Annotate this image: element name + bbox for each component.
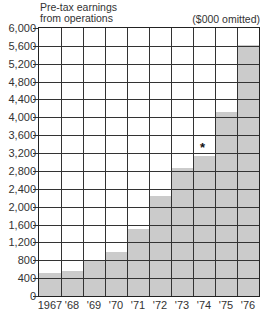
y-tick-label: 1,200 [8,236,36,248]
gridline-vertical [105,28,106,296]
y-tick-label: 6,000 [8,22,36,34]
bar-71 [127,229,149,296]
x-tick-label: '73 [171,299,193,311]
gridline-vertical [215,28,216,296]
y-tick-label: 3,200 [8,147,36,159]
bar-70 [105,252,127,296]
gridline-vertical [171,28,172,296]
x-tick-label: '74 [193,299,215,311]
gridline-vertical [237,28,238,296]
x-tick-label: '75 [215,299,237,311]
x-tick-label: '69 [83,299,105,311]
y-tick-label: 4,000 [8,111,36,123]
units-label: ($000 omitted) [192,13,260,25]
y-tick-label: 5,600 [8,40,36,52]
gridline-vertical [83,28,84,296]
x-tick-label: '76 [237,299,259,311]
x-tick-label: '71 [127,299,149,311]
x-tick-label: '70 [105,299,127,311]
y-tick-label: 2,800 [8,165,36,177]
x-tick-label: '68 [61,299,83,311]
chart-title: Pre-tax earnings from operations [40,2,117,24]
y-tick-label: 3,600 [8,129,36,141]
bar-73 [171,168,193,296]
gridline-vertical [127,28,128,296]
plot-area: * [38,27,260,297]
bar-1967 [39,273,61,296]
x-tick-label: '72 [149,299,171,311]
y-tick-label: 4,400 [8,93,36,105]
y-tick-label: 5,200 [8,58,36,70]
y-tick-label: 1,600 [8,219,36,231]
chart-title-line-2: from operations [40,13,117,24]
bar-72 [149,196,171,296]
gridline-vertical [149,28,150,296]
gridline-vertical [193,28,194,296]
y-tick-label: 2,000 [8,201,36,213]
bar-75 [215,112,237,296]
asterisk-annotation: * [200,140,205,155]
y-tick-label: 2,400 [8,183,36,195]
bar-74 [193,156,215,296]
gridline-vertical [61,28,62,296]
bar-68 [61,271,83,296]
y-tick-label: 4,800 [8,76,36,88]
